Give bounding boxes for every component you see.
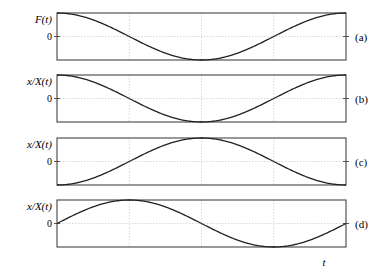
y-tick-zero-label: 0 — [47, 218, 52, 229]
figure: F(t)0(a)x/X(t)0(b)x/X(t)0(c)x/X(t)0(d)t — [0, 0, 381, 274]
panel-tag: (c) — [355, 156, 368, 169]
panel-b: x/X(t)0(b) — [26, 75, 368, 122]
panel-tag: (b) — [355, 93, 368, 106]
y-axis-label: x/X(t) — [26, 200, 52, 213]
y-tick-zero-label: 0 — [47, 93, 52, 104]
y-axis-label: x/X(t) — [26, 138, 52, 151]
panel-c: x/X(t)0(c) — [26, 138, 368, 185]
y-tick-zero-label: 0 — [47, 31, 52, 42]
y-axis-label: F(t) — [34, 13, 52, 26]
x-axis-label: t — [322, 256, 326, 268]
panel-tag: (a) — [355, 31, 368, 44]
y-tick-zero-label: 0 — [47, 156, 52, 167]
y-axis-label: x/X(t) — [26, 75, 52, 88]
panel-d: x/X(t)0(d) — [26, 200, 368, 247]
panel-a: F(t)0(a) — [34, 13, 368, 60]
panel-tag: (d) — [355, 218, 368, 231]
